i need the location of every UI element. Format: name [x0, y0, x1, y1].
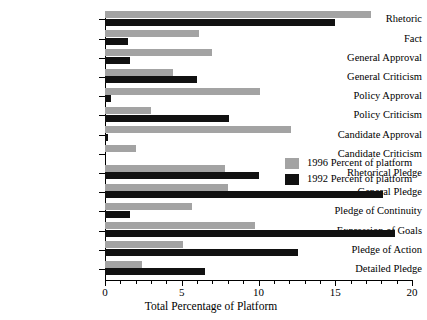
category-axis [0, 0, 101, 280]
x-tick-4 [166, 280, 167, 284]
x-tick-17 [366, 280, 367, 284]
x-tick-8 [228, 280, 229, 284]
bar-1996-expression-of-goals [105, 222, 255, 229]
bar-1996-fact [105, 30, 199, 37]
bar-1992-rhetorical-pledge [105, 172, 259, 179]
bar-1996-rhetoric [105, 11, 371, 18]
x-tick-2 [136, 280, 137, 284]
bar-1992-fact [105, 38, 128, 45]
x-tick-label-10: 10 [244, 286, 274, 298]
bar-1996-general-approval [105, 49, 212, 56]
bar-1996-pledge-of-action [105, 241, 183, 248]
bar-1992-detailed-pledge [105, 268, 205, 275]
bar-1992-general-pledge [105, 191, 383, 198]
x-tick-16 [351, 280, 352, 284]
category-label-general-criticism: General Criticism [322, 71, 422, 82]
bar-1992-policy-criticism [105, 115, 229, 122]
bar-1996-policy-approval [105, 88, 260, 95]
category-label-detailed-pledge: Detailed Pledge [322, 263, 422, 274]
legend-label-1992: 1992 Percent of platform [307, 173, 412, 185]
category-label-policy-approval: Policy Approval [322, 90, 422, 101]
bar-1992-policy-approval [105, 95, 111, 102]
legend-label-1996: 1996 Percent of platform [307, 157, 412, 169]
legend-item-1992: 1992 Percent of platform [285, 173, 412, 185]
x-tick-3 [151, 280, 152, 284]
category-label-fact: Fact [322, 33, 422, 44]
category-label-pledge-of-continuity: Pledge of Continuity [322, 205, 422, 216]
x-tick-11 [274, 280, 275, 284]
x-tick-14 [320, 280, 321, 284]
x-tick-18 [381, 280, 382, 284]
category-tick [99, 154, 105, 155]
bar-1992-pledge-of-continuity [105, 211, 130, 218]
bar-1996-detailed-pledge [105, 261, 142, 268]
category-label-candidate-approval: Candidate Approval [322, 129, 422, 140]
x-tick-19 [397, 280, 398, 284]
bar-1992-expression-of-goals [105, 230, 395, 237]
category-label-general-approval: General Approval [322, 52, 422, 63]
bar-1996-policy-criticism [105, 107, 151, 114]
bar-1996-candidate-approval [105, 126, 291, 133]
x-tick-1 [120, 280, 121, 284]
x-tick-6 [197, 280, 198, 284]
x-tick-label-5: 5 [167, 286, 197, 298]
legend-swatch-1996 [285, 158, 299, 169]
bar-1992-candidate-approval [105, 134, 108, 141]
category-label-policy-criticism: Policy Criticism [322, 109, 422, 120]
x-tick-7 [212, 280, 213, 284]
chart-legend: 1996 Percent of platform 1992 Percent of… [285, 157, 412, 189]
bar-1996-pledge-of-continuity [105, 203, 192, 210]
bar-1992-pledge-of-action [105, 249, 298, 256]
category-label-pledge-of-action: Pledge of Action [322, 244, 422, 255]
x-tick-13 [305, 280, 306, 284]
x-tick-label-15: 15 [320, 286, 350, 298]
bar-1992-general-approval [105, 57, 130, 64]
bar-1992-rhetoric [105, 19, 335, 26]
legend-swatch-1992 [285, 174, 299, 185]
legend-item-1996: 1996 Percent of platform [285, 157, 412, 169]
x-tick-12 [289, 280, 290, 284]
bar-1996-general-pledge [105, 184, 228, 191]
x-tick-9 [243, 280, 244, 284]
bar-1992-general-criticism [105, 76, 197, 83]
bar-1996-general-criticism [105, 69, 173, 76]
x-tick-label-20: 20 [397, 286, 427, 298]
x-tick-label-0: 0 [90, 286, 120, 298]
x-axis-title: Total Percentage of Platform [0, 300, 422, 312]
bar-1996-rhetorical-pledge [105, 165, 225, 172]
bar-1996-candidate-criticism [105, 145, 136, 152]
